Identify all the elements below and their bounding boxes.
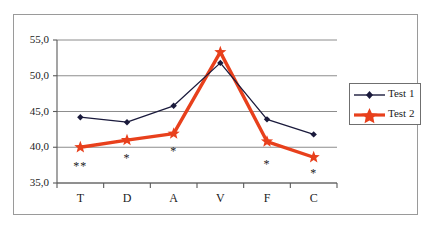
annotation-T: ** bbox=[65, 159, 95, 174]
series-line-test-1 bbox=[80, 63, 313, 135]
y-tick-label-4: 35,0 bbox=[15, 176, 49, 188]
annotation-C: * bbox=[299, 166, 329, 181]
series-markers bbox=[74, 46, 320, 163]
data-point-test-2-C bbox=[308, 151, 320, 163]
y-axis bbox=[53, 40, 57, 183]
x-tick-label-V: V bbox=[205, 191, 235, 206]
annotation-D: * bbox=[112, 151, 142, 166]
legend-marker-test2 bbox=[353, 105, 386, 125]
x-tick-label-A: A bbox=[159, 191, 189, 206]
legend-marker-test1 bbox=[353, 85, 386, 105]
x-tick-label-F: F bbox=[252, 191, 282, 206]
y-tick-label-2: 45,0 bbox=[15, 105, 49, 117]
data-point-test-2-T bbox=[74, 141, 86, 153]
data-point-test-1-T bbox=[77, 114, 83, 120]
legend-label-test1: Test 1 bbox=[388, 87, 414, 99]
gridlines bbox=[57, 40, 337, 183]
data-point-test-2-D bbox=[121, 134, 133, 146]
x-tick-label-C: C bbox=[299, 191, 329, 206]
series-line-test-2 bbox=[80, 52, 313, 157]
annotation-F: * bbox=[252, 157, 282, 172]
y-tick-label-1: 50,0 bbox=[15, 69, 49, 81]
legend-label-test2: Test 2 bbox=[388, 107, 414, 119]
x-tick-label-T: T bbox=[65, 191, 95, 206]
annotation-A: * bbox=[159, 144, 189, 159]
data-point-test-1-C bbox=[310, 131, 316, 137]
series-lines bbox=[80, 52, 313, 157]
y-tick-label-3: 40,0 bbox=[15, 140, 49, 152]
legend: Test 1 Test 2 bbox=[349, 83, 421, 125]
chart-figure: 55,050,045,040,035,0 TDAVFC ****** Test … bbox=[0, 0, 431, 232]
legend-row-test2: Test 2 bbox=[350, 105, 422, 125]
x-axis bbox=[57, 183, 337, 188]
data-point-test-1-D bbox=[124, 119, 130, 125]
x-tick-label-D: D bbox=[112, 191, 142, 206]
legend-row-test1: Test 1 bbox=[350, 85, 422, 105]
y-tick-label-0: 55,0 bbox=[15, 33, 49, 45]
